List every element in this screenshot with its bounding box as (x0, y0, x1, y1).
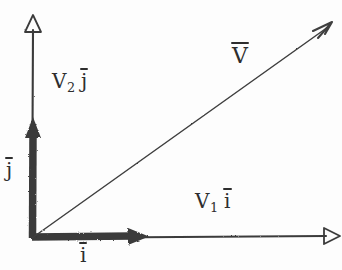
unit-vector-i-arrowhead-icon (128, 228, 149, 245)
unit-vector-j-shaft (33, 134, 34, 238)
label-unit-vector-i: i (80, 244, 86, 265)
diagram-canvas (0, 0, 342, 270)
label-resultant-vector-text: V (232, 44, 248, 67)
label-y-component-subscript: 2 (66, 80, 75, 95)
unit-vector-j-arrowhead-icon (25, 117, 41, 138)
label-x-component: V1i (195, 190, 231, 215)
label-x-component-subscript: 1 (209, 200, 218, 215)
label-y-component: V2j (52, 70, 87, 95)
resultant-vector-shaft (32, 27, 328, 238)
label-unit-vector-i-text: i (80, 244, 86, 265)
unit-vector-i-shaft (32, 236, 132, 237)
vector-diagram: V V2j V1i j i (0, 0, 342, 270)
label-y-component-scalar: V (52, 69, 66, 93)
label-y-component-unit: j (81, 70, 87, 91)
label-x-component-scalar: V (195, 189, 209, 213)
label-unit-vector-j: j (6, 159, 12, 180)
label-unit-vector-j-text: j (6, 159, 12, 180)
label-x-component-unit: i (224, 190, 230, 211)
label-resultant-vector: V (232, 44, 248, 67)
